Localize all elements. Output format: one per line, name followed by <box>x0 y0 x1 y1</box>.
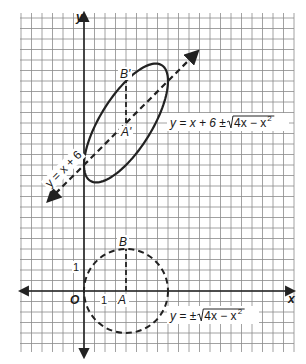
point-a-label: A <box>117 293 126 307</box>
circle-equation-label: y = ± 4x − x 2 <box>167 306 259 324</box>
circle-eq-exponent: 2 <box>238 307 243 316</box>
svg-text:y = ±: y = ± <box>169 309 197 323</box>
svg-text:y = x + 6 ±: y = x + 6 ± <box>169 116 226 130</box>
origin-label: O <box>70 293 80 307</box>
x-axis-label: x <box>287 292 296 306</box>
ellipse-eq-prefix: y = x + 6 ± <box>169 116 226 130</box>
point-a-prime-label: A' <box>120 125 132 139</box>
circle-eq-radicand: 4x − x <box>204 309 236 323</box>
circle-eq-prefix: y = ± <box>169 309 197 323</box>
y-axis-label: y <box>75 10 84 24</box>
line-equation-label: y = x + 6 <box>42 147 85 190</box>
y-tick-label-1: 1 <box>73 261 79 273</box>
ellipse-eq-exponent: 2 <box>267 114 272 123</box>
ellipse-equation-label: y = x + 6 ± 4x − x 2 <box>167 113 289 131</box>
point-b-label: B <box>119 235 127 249</box>
x-tick-label-1: 1 <box>101 294 107 306</box>
point-b-prime-label: B' <box>120 67 131 81</box>
coordinate-diagram: y x O 1 1 A B A' B' y = x + 6 y = x + 6 … <box>0 0 306 364</box>
ellipse-eq-radicand: 4x − x <box>234 116 266 130</box>
